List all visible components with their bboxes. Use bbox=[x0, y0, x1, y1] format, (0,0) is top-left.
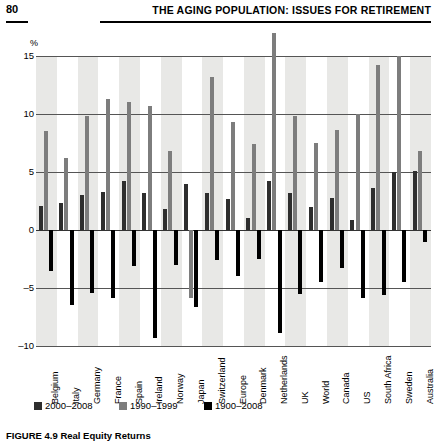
x-axis-tick-label: Netherlands bbox=[279, 355, 289, 404]
bar bbox=[64, 158, 68, 230]
legend-label: 2000–2008 bbox=[45, 400, 93, 411]
bar-group bbox=[265, 56, 286, 346]
bar bbox=[226, 199, 230, 230]
bar bbox=[184, 184, 188, 230]
bar bbox=[376, 65, 380, 230]
bar bbox=[257, 230, 261, 259]
x-axis-tick-label: South Africa bbox=[383, 355, 393, 404]
bar-group bbox=[306, 56, 327, 346]
figure-number: FIGURE 4.9 bbox=[6, 430, 58, 441]
bar bbox=[350, 220, 354, 230]
x-axis-tick-label: Denmark bbox=[258, 367, 268, 404]
plot-area bbox=[36, 56, 431, 346]
header-rule bbox=[100, 21, 431, 23]
bar bbox=[70, 230, 74, 305]
bar bbox=[80, 195, 84, 230]
legend-swatch bbox=[204, 402, 212, 410]
bar-group bbox=[389, 56, 410, 346]
y-axis-tick-label: 5 bbox=[4, 167, 34, 177]
folio-rule bbox=[6, 21, 28, 23]
bar bbox=[122, 181, 126, 230]
bar bbox=[272, 33, 276, 230]
bar-group bbox=[182, 56, 203, 346]
bar bbox=[148, 106, 152, 230]
bar bbox=[127, 102, 131, 230]
bar bbox=[361, 230, 365, 298]
bar bbox=[382, 230, 386, 295]
bar-group bbox=[202, 56, 223, 346]
bar bbox=[174, 230, 178, 265]
bar bbox=[330, 198, 334, 230]
bar bbox=[90, 230, 94, 293]
bar bbox=[319, 230, 323, 282]
bar bbox=[392, 172, 396, 230]
x-axis-tick-label: Australia bbox=[425, 369, 435, 404]
page-number: 80 bbox=[6, 3, 18, 15]
running-head: THE AGING POPULATION: ISSUES FOR RETIREM… bbox=[152, 4, 431, 16]
bar-group bbox=[327, 56, 348, 346]
bar bbox=[236, 230, 240, 276]
y-axis-tick-label: –10 bbox=[4, 341, 34, 351]
bar-group bbox=[410, 56, 431, 346]
bar bbox=[418, 151, 422, 230]
bar bbox=[44, 131, 48, 230]
bar bbox=[205, 193, 209, 230]
bar-group bbox=[78, 56, 99, 346]
bar bbox=[153, 230, 157, 338]
legend-item: 2000–2008 bbox=[34, 400, 93, 411]
y-axis-tick-label: 10 bbox=[4, 109, 34, 119]
bar bbox=[309, 207, 313, 230]
legend-swatch bbox=[34, 402, 42, 410]
bar bbox=[85, 116, 89, 230]
bar bbox=[252, 144, 256, 230]
bar bbox=[402, 230, 406, 282]
bar-group bbox=[369, 56, 390, 346]
bar bbox=[194, 230, 198, 307]
bar bbox=[246, 218, 250, 230]
bar bbox=[111, 230, 115, 298]
bar bbox=[168, 151, 172, 230]
y-axis-tick-label: –5 bbox=[4, 283, 34, 293]
figure-title: Real Equity Returns bbox=[60, 430, 150, 441]
bar-group bbox=[223, 56, 244, 346]
y-axis-ticks: 151050–5–10 bbox=[0, 56, 34, 346]
legend-swatch bbox=[119, 402, 127, 410]
bar-group bbox=[244, 56, 265, 346]
bar bbox=[335, 130, 339, 230]
bar bbox=[371, 188, 375, 230]
bar bbox=[142, 193, 146, 230]
bar bbox=[278, 230, 282, 333]
bar bbox=[106, 99, 110, 230]
bar bbox=[59, 203, 63, 230]
page-header: 80 THE AGING POPULATION: ISSUES FOR RETI… bbox=[0, 0, 439, 28]
bar-chart: % 151050–5–10 BelgiumItalyGermanyFranceS… bbox=[0, 36, 439, 366]
bar bbox=[340, 230, 344, 268]
y-axis-tick-label: 15 bbox=[4, 51, 34, 61]
bar bbox=[314, 143, 318, 230]
legend-label: 1900–2008 bbox=[215, 400, 263, 411]
bar bbox=[210, 77, 214, 230]
bar-group bbox=[348, 56, 369, 346]
chart-legend: 2000–20081990–19991900–2008 bbox=[34, 400, 434, 414]
bar bbox=[267, 181, 271, 230]
bar bbox=[413, 171, 417, 230]
bar bbox=[231, 122, 235, 230]
bar bbox=[298, 230, 302, 294]
legend-item: 1990–1999 bbox=[119, 400, 178, 411]
bar bbox=[189, 230, 193, 298]
bar-group bbox=[57, 56, 78, 346]
bar bbox=[288, 193, 292, 230]
x-axis-tick-label: Switzerland bbox=[217, 357, 227, 404]
legend-label: 1990–1999 bbox=[130, 400, 178, 411]
bar-group bbox=[285, 56, 306, 346]
bar bbox=[356, 114, 360, 230]
bar-group bbox=[98, 56, 119, 346]
bar bbox=[215, 230, 219, 260]
bar-group bbox=[161, 56, 182, 346]
bar bbox=[101, 192, 105, 230]
bar bbox=[293, 116, 297, 230]
y-axis-unit-label: % bbox=[30, 38, 38, 48]
bar-group bbox=[119, 56, 140, 346]
bar-group bbox=[36, 56, 57, 346]
y-axis-tick-label: 0 bbox=[4, 225, 34, 235]
